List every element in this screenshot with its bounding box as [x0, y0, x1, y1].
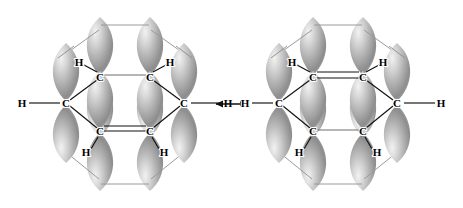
- atom-label-c5: C: [359, 125, 367, 137]
- atom-label-h5: H: [82, 146, 91, 158]
- atom-label-h2: H: [75, 56, 84, 68]
- atom-label-h3: H: [379, 56, 388, 68]
- atom-label-h6: H: [373, 146, 382, 158]
- atom-label-h6: H: [160, 146, 169, 158]
- atom-label-h4: H: [437, 97, 446, 109]
- atom-label-h5: H: [295, 146, 304, 158]
- atom-label-h2: H: [288, 56, 297, 68]
- atom-label-c4: C: [393, 97, 401, 109]
- atom-label-h3: H: [166, 56, 175, 68]
- atom-label-c3: C: [146, 71, 154, 83]
- atom-label-c4: C: [180, 97, 188, 109]
- atom-label-c1: C: [275, 97, 283, 109]
- atom-label-c2: C: [309, 71, 317, 83]
- atom-label-c6: C: [96, 125, 104, 137]
- atom-label-h4: H: [224, 97, 233, 109]
- atom-label-c5: C: [146, 125, 154, 137]
- atom-label-h1: H: [18, 97, 27, 109]
- resonance-diagram: C C C C C C H H H H H H: [0, 0, 463, 208]
- atom-label-c6: C: [309, 125, 317, 137]
- atom-label-c3: C: [359, 71, 367, 83]
- atom-label-h1: H: [241, 97, 250, 109]
- atom-label-c1: C: [62, 97, 70, 109]
- atom-label-c2: C: [96, 71, 104, 83]
- figure-canvas: C C C C C C H H H H H H: [0, 0, 463, 208]
